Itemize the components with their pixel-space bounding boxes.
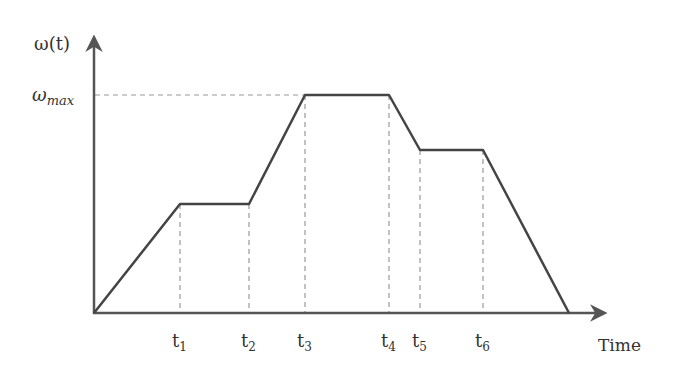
tick-t4: t4: [381, 330, 396, 354]
x-tick-labels: t1 t2 t3 t4 t5 t6: [172, 330, 490, 354]
y-axis-label: ω(t): [34, 33, 70, 54]
velocity-profile-line: [94, 95, 569, 313]
tick-t5: t5: [412, 330, 427, 354]
tick-t2: t2: [241, 330, 256, 354]
tick-t1: t1: [172, 330, 187, 354]
x-axis-label: Time: [598, 335, 641, 355]
omega-symbol: ω: [32, 84, 47, 105]
tick-t3: t3: [297, 330, 312, 354]
velocity-profile-diagram: ω(t) ωmax t1 t2 t3 t4 t5 t6 Time: [0, 0, 679, 370]
tick-t6: t6: [475, 330, 490, 354]
omega-max-label: ωmax: [32, 84, 75, 108]
max-subscript: max: [47, 93, 75, 108]
